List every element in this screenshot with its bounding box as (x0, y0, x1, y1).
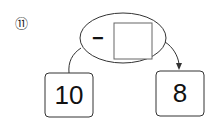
answer-blank-box[interactable] (114, 23, 152, 59)
arrowhead-icon (176, 63, 182, 70)
start-value-text: 10 (45, 80, 93, 111)
result-value-text: 8 (156, 78, 204, 109)
left-connector-curve (69, 48, 81, 73)
diagram-canvas (0, 0, 219, 132)
minus-operator: − (92, 27, 104, 50)
right-arrow-curve (165, 42, 179, 64)
problem-number-label: ⑪ (15, 13, 28, 32)
